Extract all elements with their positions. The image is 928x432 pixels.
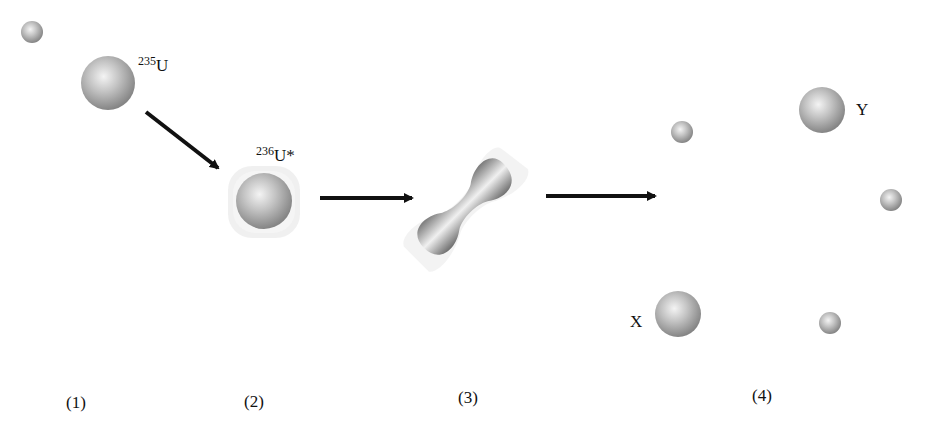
fragment-y-label: Y bbox=[856, 100, 868, 120]
arrow-1-icon bbox=[146, 112, 218, 168]
fragment-y-nucleus bbox=[799, 87, 845, 133]
fragment-x-label: X bbox=[630, 312, 642, 332]
stage-label-1: (1) bbox=[66, 393, 86, 413]
stage-label-3: (3) bbox=[458, 388, 478, 408]
incident-neutron bbox=[21, 21, 43, 43]
fragment-x-nucleus bbox=[655, 291, 701, 337]
stage-label-4: (4) bbox=[752, 386, 772, 406]
released-neutron bbox=[880, 189, 902, 211]
released-neutron bbox=[671, 121, 693, 143]
u236-excited-nucleus bbox=[228, 166, 300, 238]
u236-label: 236U* bbox=[256, 144, 295, 166]
deformed-nucleus bbox=[399, 141, 533, 275]
u235-nucleus bbox=[81, 56, 135, 110]
u235-label: 235U bbox=[138, 54, 168, 76]
released-neutron bbox=[819, 312, 841, 334]
stage-label-2: (2) bbox=[244, 392, 264, 412]
fission-diagram: 235U 236U* Y X (1) (2) (3) (4) bbox=[0, 0, 928, 432]
